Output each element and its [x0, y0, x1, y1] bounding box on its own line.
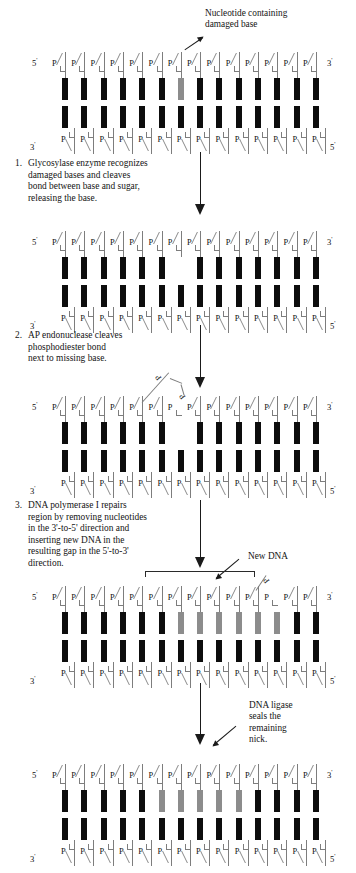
sugar-stroke [162, 139, 176, 151]
backbone-barb [176, 410, 182, 416]
sugar-stroke [181, 483, 195, 495]
backbone-barb [262, 844, 268, 850]
step-3-number: 3. [8, 500, 22, 512]
sugar-stroke [95, 397, 109, 409]
sugar-stroke [142, 483, 156, 495]
sugar-stroke [172, 53, 186, 65]
backbone-barb [69, 476, 75, 482]
backbone-unit: P [235, 307, 255, 333]
backbone-unit: P [206, 586, 226, 612]
sugar-stroke [162, 483, 176, 495]
base-pair-bar [197, 422, 203, 444]
top-strand-bases [0, 422, 356, 446]
backbone-unit: P [129, 764, 149, 790]
backbone-barb [127, 666, 133, 672]
base-pair-bar [81, 818, 87, 840]
base-pair-bar [81, 640, 87, 662]
sugar-stroke [104, 318, 118, 330]
sugar-stroke [95, 765, 109, 777]
base-pair-bar [313, 78, 319, 100]
backbone-unit: P [61, 472, 81, 498]
leader-line-ligase [213, 726, 237, 746]
backbone-unit: P [254, 128, 274, 154]
step-3-body: DNA polymerase I repairs region by remov… [28, 500, 203, 570]
base-pair-bar [120, 257, 126, 279]
base-pair-bar [120, 640, 126, 662]
base-pair-bar [101, 612, 107, 634]
base-pair-bar [274, 818, 280, 840]
backbone-barb [195, 600, 201, 606]
backbone-unit: P [91, 586, 111, 612]
backbone-barb [301, 666, 307, 672]
backbone-barb [223, 844, 229, 850]
bottom-right-end-label: 5' [330, 319, 336, 331]
sugar-stroke [75, 587, 89, 599]
sugar-stroke [114, 765, 128, 777]
top-strand-bases [0, 78, 356, 102]
sugar-stroke [316, 851, 330, 863]
backbone-unit: P [196, 840, 216, 866]
top-strand-backbone: PPPPPPPPPPPPPP5'3' [0, 764, 356, 790]
base-pair-bar [197, 257, 203, 279]
callout-new-dna: New DNA [248, 551, 288, 562]
sugar-stroke [258, 851, 272, 863]
damaged-base [178, 78, 184, 100]
backbone-unit: P [119, 472, 139, 498]
bottom-strand-backbone: PPPPPPPPPPPPPP3'5' [0, 840, 356, 866]
sugar-stroke [297, 851, 311, 863]
flow-arrow-1 [195, 152, 206, 215]
backbone-unit: P [264, 231, 284, 257]
flow-arrow-4 [195, 683, 206, 745]
backbone-unit: P [71, 586, 91, 612]
backbone-unit: P [158, 840, 178, 866]
backbone-barb [311, 410, 317, 416]
backbone-barb [281, 844, 287, 850]
backbone-barb [108, 311, 114, 317]
backbone-barb [166, 311, 172, 317]
sugar-stroke [200, 483, 214, 495]
base-pair-bar [178, 450, 184, 472]
backbone-barb [185, 476, 191, 482]
new-dna-base [197, 612, 203, 634]
backbone-barb [234, 245, 240, 251]
sugar-stroke [153, 397, 167, 409]
base-pair-bar [62, 640, 68, 662]
backbone-barb [292, 245, 298, 251]
base-pair-bar [216, 422, 222, 444]
backbone-barb [118, 600, 124, 606]
top-left-end-label: 5' [32, 235, 38, 247]
sugar-stroke [249, 232, 263, 244]
base-pair-bar [274, 450, 280, 472]
phosphate-label: P [264, 593, 269, 602]
base-pair-bar [120, 106, 126, 128]
backbone-unit: P [215, 128, 235, 154]
sugar-stroke [95, 53, 109, 65]
backbone-unit: P [52, 52, 72, 78]
callout-new-dna-label: New DNA [248, 551, 288, 561]
sugar-stroke [172, 765, 186, 777]
step-3-line2: region by removing nucleotides [28, 512, 147, 522]
top-strand-backbone: PPPPPPPPPPPPPP5'3' [0, 231, 356, 257]
callout-dna-ligase: DNA ligase seals the remaining nick. [249, 700, 293, 746]
backbone-barb [223, 132, 229, 138]
sugar-stroke [133, 397, 147, 409]
backbone-unit: P [129, 231, 149, 257]
backbone-unit: P [100, 472, 120, 498]
base-pair-bar [294, 78, 300, 100]
backbone-unit: P [215, 472, 235, 498]
backbone-barb [157, 410, 163, 416]
backbone-barb [292, 410, 298, 416]
sugar-stroke [153, 587, 167, 599]
backbone-barb [311, 66, 317, 72]
base-pair-bar [197, 285, 203, 307]
sugar-stroke [172, 232, 186, 244]
backbone-barb [292, 66, 298, 72]
step-3-line5: resulting gap in the 5'-to-3' [28, 546, 129, 556]
base-pair-bar [178, 640, 184, 662]
new-dna-base [178, 612, 184, 634]
top-right-end-label: 3' [327, 768, 333, 780]
base-pair-bar [139, 640, 145, 662]
base-pair-bar [313, 450, 319, 472]
arrow-shaft [200, 152, 201, 204]
base-pair-bar [139, 257, 145, 279]
